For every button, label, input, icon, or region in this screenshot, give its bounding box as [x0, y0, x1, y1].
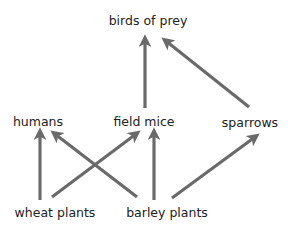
node-barley-plants: barley plants	[126, 205, 208, 220]
food-web-diagram: birds of prey humans field mice sparrows…	[0, 0, 290, 235]
node-field-mice: field mice	[113, 114, 174, 129]
arrow-barley-to-sparrows	[172, 137, 255, 198]
node-birds-of-prey: birds of prey	[109, 13, 188, 28]
node-sparrows: sparrows	[222, 115, 278, 130]
arrow-sparrows-to-birds-of-prey	[166, 41, 249, 107]
node-humans: humans	[13, 114, 63, 129]
node-wheat-plants: wheat plants	[15, 205, 96, 220]
